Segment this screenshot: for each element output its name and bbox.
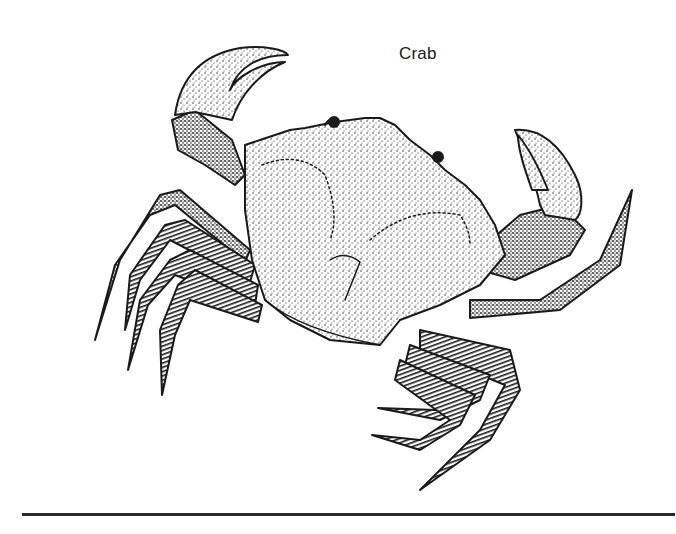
figure-label: Crab — [399, 44, 437, 64]
right-eye — [433, 152, 443, 162]
figure-page: Crab — [0, 0, 676, 534]
crab-illustration — [0, 0, 676, 534]
left-legs — [95, 190, 262, 395]
carapace — [245, 118, 505, 345]
left-eye — [329, 117, 339, 127]
horizontal-rule — [22, 513, 675, 516]
